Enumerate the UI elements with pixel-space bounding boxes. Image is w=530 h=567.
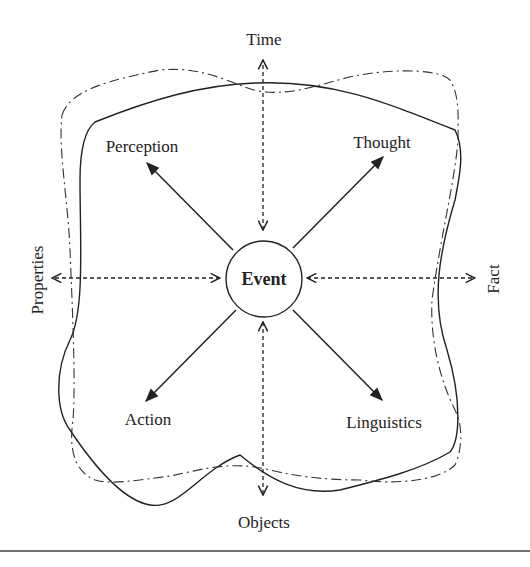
properties-label: Properties xyxy=(28,246,47,315)
linguistics-arrow xyxy=(293,310,382,400)
event-label: Event xyxy=(242,269,287,289)
linguistics-label: Linguistics xyxy=(346,413,422,432)
thought-arrow xyxy=(293,157,383,248)
fact-label: Fact xyxy=(484,264,503,294)
perception-label: Perception xyxy=(106,137,179,156)
action-label: Action xyxy=(125,410,172,429)
objects-label: Objects xyxy=(238,513,290,532)
event-diagram: Event Time Objects Properties Fact Perce… xyxy=(0,0,530,567)
thought-label: Thought xyxy=(353,133,411,152)
action-arrow xyxy=(146,310,236,401)
time-label: Time xyxy=(246,30,281,49)
perception-arrow xyxy=(147,163,233,250)
